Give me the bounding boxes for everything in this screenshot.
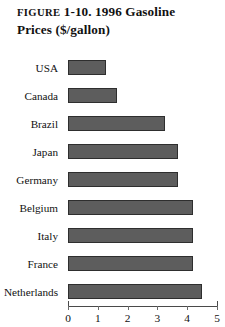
bar-row-italy: Italy — [0, 222, 225, 250]
bar-track-germany — [63, 166, 225, 194]
bar-canada — [68, 88, 117, 103]
x-axis-tick-label-3: 3 — [147, 312, 167, 325]
bar-japan — [68, 144, 178, 159]
bar-italy — [68, 228, 193, 243]
bar-track-france — [63, 250, 225, 278]
figure-number: 1-10. — [64, 4, 92, 19]
x-axis-tick-label-5: 5 — [207, 312, 225, 325]
x-axis-tick-0 — [68, 306, 69, 310]
bar-track-brazil — [63, 110, 225, 138]
x-axis-tick-label-0: 0 — [58, 312, 78, 325]
bar-track-netherlands — [63, 278, 225, 306]
bar-rows: USA Canada Brazil Japan — [0, 54, 225, 306]
category-label-italy: Italy — [0, 230, 63, 242]
x-axis-tick-label-4: 4 — [177, 312, 197, 325]
x-axis-tick-1 — [98, 306, 99, 310]
bar-track-japan — [63, 138, 225, 166]
x-axis-line — [68, 306, 218, 307]
category-label-japan: Japan — [0, 146, 63, 158]
category-label-germany: Germany — [0, 174, 63, 186]
x-axis-tick-label-2: 2 — [118, 312, 138, 325]
bar-track-usa — [63, 54, 225, 82]
bar-row-france: France — [0, 250, 225, 278]
category-label-canada: Canada — [0, 90, 63, 102]
bar-row-germany: Germany — [0, 166, 225, 194]
category-label-belgium: Belgium — [0, 202, 63, 214]
bar-track-canada — [63, 82, 225, 110]
x-axis-tick-5 — [217, 306, 218, 310]
bar-netherlands — [68, 284, 202, 299]
bar-row-canada: Canada — [0, 82, 225, 110]
x-axis-tick-3 — [157, 306, 158, 310]
bar-germany — [68, 172, 178, 187]
x-axis-tick-4 — [187, 306, 188, 310]
category-label-netherlands: Netherlands — [0, 286, 63, 298]
bar-brazil — [68, 116, 165, 131]
figure-caption: FIGURE 1-10. 1996 Gasoline Prices ($/gal… — [17, 4, 217, 38]
bar-track-italy — [63, 222, 225, 250]
x-axis-tick-2 — [128, 306, 129, 310]
bar-row-brazil: Brazil — [0, 110, 225, 138]
bar-row-usa: USA — [0, 54, 225, 82]
bar-row-belgium: Belgium — [0, 194, 225, 222]
bar-row-japan: Japan — [0, 138, 225, 166]
chart-plot-area: USA Canada Brazil Japan — [0, 54, 225, 306]
bar-row-netherlands: Netherlands — [0, 278, 225, 306]
bar-belgium — [68, 200, 193, 215]
category-label-france: France — [0, 258, 63, 270]
figure-title-line2: Prices ($/gallon) — [17, 22, 217, 39]
bar-usa — [68, 60, 106, 75]
figure-label: FIGURE — [17, 7, 60, 18]
x-axis-tick-label-1: 1 — [88, 312, 108, 325]
category-label-usa: USA — [0, 62, 63, 74]
figure-container: FIGURE 1-10. 1996 Gasoline Prices ($/gal… — [0, 0, 225, 327]
bar-france — [68, 256, 193, 271]
bar-track-belgium — [63, 194, 225, 222]
category-label-brazil: Brazil — [0, 118, 63, 130]
figure-title-line1: 1996 Gasoline — [95, 4, 175, 19]
